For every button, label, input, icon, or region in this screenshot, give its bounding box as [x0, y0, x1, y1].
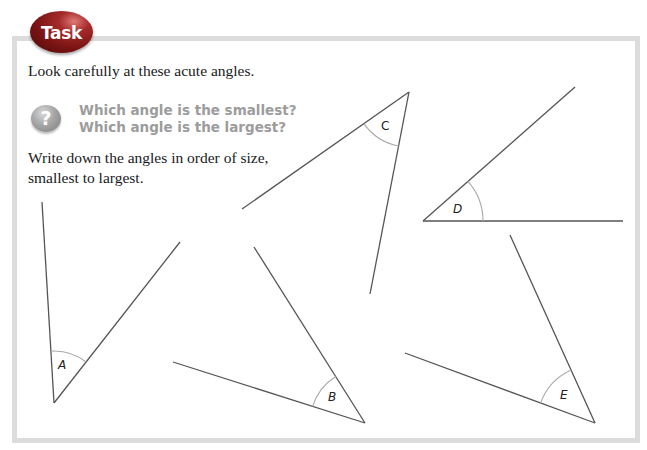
- angle-a: [42, 202, 180, 403]
- angle-label-e: E: [560, 388, 568, 402]
- angle-label-b: B: [328, 390, 336, 404]
- task-badge-label: Task: [41, 23, 82, 43]
- angle-label-a: A: [58, 358, 66, 372]
- angle-d: [423, 87, 623, 221]
- task-badge: Task: [30, 11, 93, 53]
- angle-d-ray-1: [423, 87, 575, 221]
- angle-a-ray-1: [42, 202, 54, 403]
- angle-a-arc: [51, 351, 86, 362]
- angle-label-c: C: [381, 119, 389, 133]
- angle-c-ray-1: [242, 92, 409, 209]
- angle-label-d: D: [453, 202, 462, 216]
- angle-b-ray-1: [254, 247, 365, 423]
- angle-c-ray-2: [370, 92, 409, 294]
- angles-diagram: [0, 0, 647, 450]
- angle-a-ray-2: [54, 242, 180, 403]
- angle-e-ray-1: [510, 235, 595, 423]
- angle-d-arc: [468, 181, 483, 221]
